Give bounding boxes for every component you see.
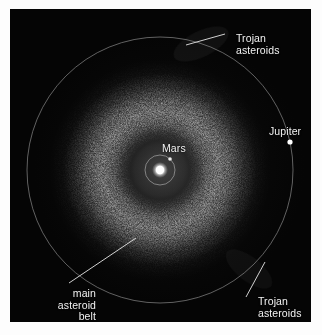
sky-panel: Trojan asteroids Jupiter Mars main aster… [10, 9, 311, 322]
sun-marker [152, 162, 168, 178]
label-trojan-asteroids-top: Trojan asteroids [236, 33, 280, 56]
label-jupiter: Jupiter [269, 126, 301, 138]
asteroid-belt-figure: Trojan asteroids Jupiter Mars main aster… [0, 0, 322, 335]
mars-marker [168, 157, 172, 161]
jupiter-marker [287, 139, 292, 144]
label-mars: Mars [162, 143, 186, 155]
label-main-asteroid-belt: main asteroid belt [34, 288, 96, 322]
label-trojan-asteroids-bottom: Trojan asteroids [258, 296, 302, 319]
